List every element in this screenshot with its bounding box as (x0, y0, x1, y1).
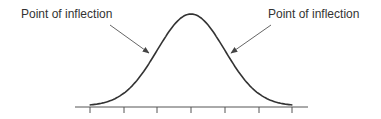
bell-curve (90, 14, 293, 105)
arrow-left (110, 25, 149, 53)
x-axis-ticks (90, 107, 292, 113)
arrow-right (231, 25, 271, 53)
normal-curve-diagram (0, 0, 381, 119)
